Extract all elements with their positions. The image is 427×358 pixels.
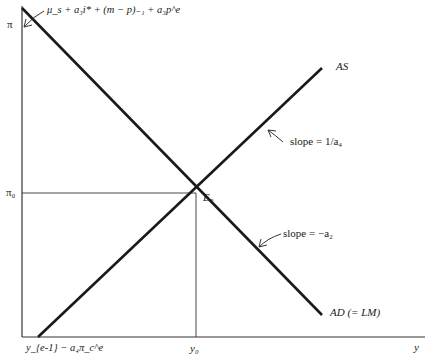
as-ad-diagram bbox=[0, 0, 427, 358]
x-axis-label: y bbox=[414, 342, 419, 353]
x-intercept-label: y_{e-1} − a₄π_c^e bbox=[26, 343, 103, 354]
ad-label: AD (= LM) bbox=[330, 307, 380, 318]
as-slope-arrow-icon bbox=[268, 130, 283, 142]
ad-curve bbox=[22, 8, 322, 315]
equilibrium-label: E₀ bbox=[203, 192, 214, 203]
y-axis-label: π bbox=[7, 19, 13, 30]
pi0-label: π₀ bbox=[6, 187, 15, 198]
y0-label: y₀ bbox=[190, 343, 199, 354]
ad-slope-label: slope = −a₂ bbox=[283, 228, 333, 239]
ad-slope-arrow-icon bbox=[259, 234, 281, 247]
as-slope-label: slope = 1/a₄ bbox=[290, 136, 342, 147]
intercept-formula: μ_s + a₃i* + (m − p)₋₁ + a₃p^e bbox=[47, 5, 180, 16]
as-label: AS bbox=[336, 61, 348, 72]
as-curve bbox=[38, 68, 322, 337]
